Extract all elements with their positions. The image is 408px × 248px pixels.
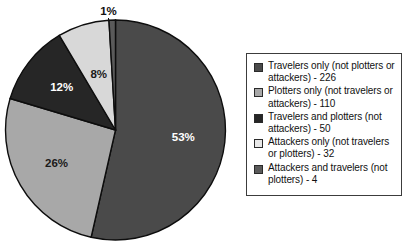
pie-area: 53%26%12%8%1% xyxy=(0,0,240,248)
legend-item-label: Travelers only (not plotters or attacker… xyxy=(268,60,396,84)
pie-slice-percent-label: 8% xyxy=(90,68,107,80)
legend-item[interactable]: Travelers only (not plotters or attacker… xyxy=(254,60,396,84)
pie-slice-percent-label: 1% xyxy=(100,5,117,17)
legend-item-label: Travelers and plotters (not attackers) -… xyxy=(268,111,396,135)
legend: Travelers only (not plotters or attacker… xyxy=(246,53,402,196)
pie-chart-figure: 53%26%12%8%1% Travelers only (not plotte… xyxy=(0,0,408,248)
pie-svg: 53%26%12%8%1% xyxy=(0,0,240,248)
legend-item-label: Attackers and travelers (not plotters) -… xyxy=(268,162,396,186)
legend-item[interactable]: Attackers only (not travelers or plotter… xyxy=(254,136,396,160)
pie-slice-percent-label: 53% xyxy=(172,131,195,143)
legend-color-swatch xyxy=(254,63,263,72)
legend-color-swatch xyxy=(254,114,263,123)
legend-color-swatch xyxy=(254,139,263,148)
legend-item[interactable]: Attackers and travelers (not plotters) -… xyxy=(254,162,396,186)
legend-item[interactable]: Plotters only (not travelers or attacker… xyxy=(254,85,396,109)
legend-item-label: Plotters only (not travelers or attacker… xyxy=(268,85,396,109)
legend-item-label: Attackers only (not travelers or plotter… xyxy=(268,136,396,160)
pie-slice-percent-label: 12% xyxy=(50,81,73,93)
legend-item[interactable]: Travelers and plotters (not attackers) -… xyxy=(254,111,396,135)
legend-color-swatch xyxy=(254,88,263,97)
legend-color-swatch xyxy=(254,165,263,174)
pie-slice-percent-label: 26% xyxy=(45,157,68,169)
